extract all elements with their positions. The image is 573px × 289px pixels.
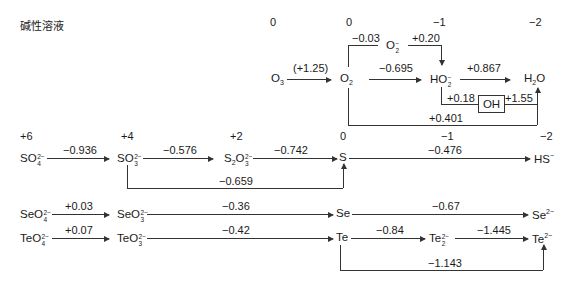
ox-state-zero: 0 xyxy=(340,131,346,142)
species-selenide: Se2− xyxy=(532,208,554,221)
line-so3-down xyxy=(127,165,128,188)
arrow-ho2m-h2o xyxy=(460,79,510,80)
potential-te-te2: −0.84 xyxy=(376,225,404,236)
arrow-seo4-seo3 xyxy=(52,214,109,215)
species-sulfate: SO2−4 xyxy=(20,152,45,166)
arrow-teo4-teo3 xyxy=(52,238,109,239)
arrow-to-s xyxy=(343,164,344,188)
ox-state-plus4: +4 xyxy=(121,131,134,142)
potential-seo4-seo3: +0.03 xyxy=(65,201,93,212)
species-selenium: Se xyxy=(336,208,350,220)
line-o2-down xyxy=(348,88,349,125)
potential-so3-s: −0.659 xyxy=(219,176,253,187)
potential-teo4-teo3: +0.07 xyxy=(65,225,93,236)
arrow-o2m-ho2m xyxy=(441,45,442,65)
species-o2: O2 xyxy=(340,73,353,86)
arrow-te2-te2m xyxy=(455,238,528,239)
species-tellurite: TeO2−3 xyxy=(117,232,146,246)
line-o2m-ho2m xyxy=(408,45,441,46)
line-o2-h2o xyxy=(348,125,537,126)
potential-o2m-ho2m: +0.20 xyxy=(412,33,440,44)
species-sulfur: S xyxy=(339,152,347,164)
species-hydroperoxide: HO−2 xyxy=(430,73,452,87)
line-te-te2m xyxy=(340,270,543,271)
potential-so4-so3: −0.936 xyxy=(63,145,97,156)
species-water: H2O xyxy=(524,73,545,86)
species-thiosulfate: S2O2−3 xyxy=(224,152,252,166)
potential-s2o3-s: −0.742 xyxy=(274,145,308,156)
potential-o2-h2o: +0.401 xyxy=(429,113,463,124)
potential-te2-te2m: −1.445 xyxy=(477,225,511,236)
arrow-s2o3-s xyxy=(253,158,337,159)
potential-o2-ho2m: −0.695 xyxy=(379,63,413,74)
line-oh-h2o xyxy=(505,104,537,105)
ox-state-plus6: +6 xyxy=(20,131,33,142)
potential-te-te2m: −1.143 xyxy=(428,258,462,269)
arrow-te-te2 xyxy=(351,238,425,239)
ox-state-minus2: −2 xyxy=(529,17,542,28)
arrow-s-hs xyxy=(349,158,530,159)
potential-teo3-te: −0.42 xyxy=(222,225,250,236)
ox-state-plus2: +2 xyxy=(230,131,243,142)
species-hydrosulfide: HS− xyxy=(534,152,554,165)
potential-oh-h2o: +1.55 xyxy=(505,93,533,104)
ox-state-minus2-chalc: −2 xyxy=(540,131,553,142)
species-sulfite: SO2−3 xyxy=(117,152,142,166)
species-tellurium: Te xyxy=(336,232,348,244)
potential-ho2m-h2o: +0.867 xyxy=(467,63,501,74)
potential-o2-o2m: −0.03 xyxy=(352,33,380,44)
potential-seo3-se: −0.36 xyxy=(222,201,250,212)
species-selenate: SeO2−4 xyxy=(20,208,51,222)
ox-state-o2: 0 xyxy=(346,17,352,28)
solution-label: 碱性溶液 xyxy=(20,17,64,33)
line-ho2m-down xyxy=(441,87,442,104)
species-superoxide: O−2 xyxy=(386,39,399,53)
arrow-o3-o2 xyxy=(287,79,331,80)
potential-se-se2m: −0.67 xyxy=(432,201,460,212)
species-hydroxyl-box: OH xyxy=(478,95,505,113)
arrow-so4-so3 xyxy=(47,158,109,159)
arrow-teo3-te xyxy=(147,238,333,239)
species-o3: O3 xyxy=(271,73,284,86)
ox-state-minus1-chalc: −1 xyxy=(441,131,454,142)
species-ditelluride: Te2−2 xyxy=(429,232,449,246)
potential-o3-o2: (+1.25) xyxy=(293,63,328,74)
line-so3-s xyxy=(127,188,343,189)
potential-so3-s2o3: −0.576 xyxy=(163,145,197,156)
arrow-so3-s2o3 xyxy=(143,158,213,159)
line-te-down xyxy=(340,245,341,270)
line-o2-o2m xyxy=(348,45,378,46)
arrow-seo3-se xyxy=(147,214,333,215)
line-o2-up xyxy=(348,45,349,67)
arrow-to-te2m xyxy=(543,245,544,270)
species-selenite: SeO2−3 xyxy=(117,208,148,222)
line-ho2m-oh xyxy=(441,104,479,105)
ox-state-minus1: −1 xyxy=(433,17,446,28)
potential-s-hs: −0.476 xyxy=(428,145,462,156)
ox-state-o3: 0 xyxy=(270,17,276,28)
arrow-o2-ho2m xyxy=(369,79,421,80)
species-tellurate: TeO2−4 xyxy=(20,232,49,246)
potential-ho2m-oh: +0.18 xyxy=(447,93,475,104)
arrow-se-se2m xyxy=(352,214,528,215)
arrow-to-h2o xyxy=(537,88,538,125)
